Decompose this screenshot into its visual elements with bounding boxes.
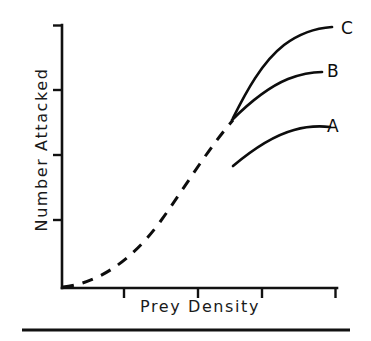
curve-label-c: C: [341, 20, 353, 37]
plot-canvas: [0, 0, 371, 341]
curve-label-a: A: [327, 118, 339, 135]
x-axis-label: Prey Density: [62, 297, 338, 316]
curve-a: [233, 126, 330, 166]
functional-response-figure: C B A Prey Density Number Attacked: [0, 0, 371, 341]
curve-label-b: B: [327, 63, 339, 80]
y-axis-label: Number Attacked: [32, 25, 51, 275]
curve-shared-dashed: [63, 120, 233, 287]
